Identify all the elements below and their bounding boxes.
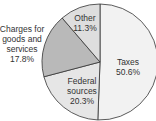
pie-chart: Taxes 50.6% Federal sources 20.3% Charge… — [0, 0, 156, 121]
label-federal-name: Federal — [68, 76, 97, 86]
label-other-name: Other — [74, 13, 95, 23]
label-federal-name2: sources — [67, 86, 97, 96]
label-taxes-value: 50.6% — [116, 67, 141, 77]
label-other-value: 11.3% — [73, 23, 97, 33]
label-charges-value: 17.8% — [10, 54, 35, 64]
label-charges-name3: services — [6, 44, 37, 54]
label-taxes-name: Taxes — [117, 57, 139, 67]
label-federal-value: 20.3% — [70, 96, 95, 106]
label-charges-name: Charges for — [0, 24, 44, 34]
label-charges-name2: goods and — [2, 34, 42, 44]
